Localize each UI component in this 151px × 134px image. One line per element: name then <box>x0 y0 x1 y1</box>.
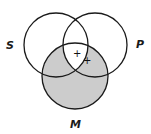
venn-diagram: + + S P M <box>0 0 151 134</box>
label-s: S <box>6 39 14 52</box>
plus-mark-1: + <box>73 48 81 59</box>
label-m: M <box>70 118 81 131</box>
plus-mark-2: + <box>83 55 91 66</box>
label-p: P <box>136 38 144 51</box>
